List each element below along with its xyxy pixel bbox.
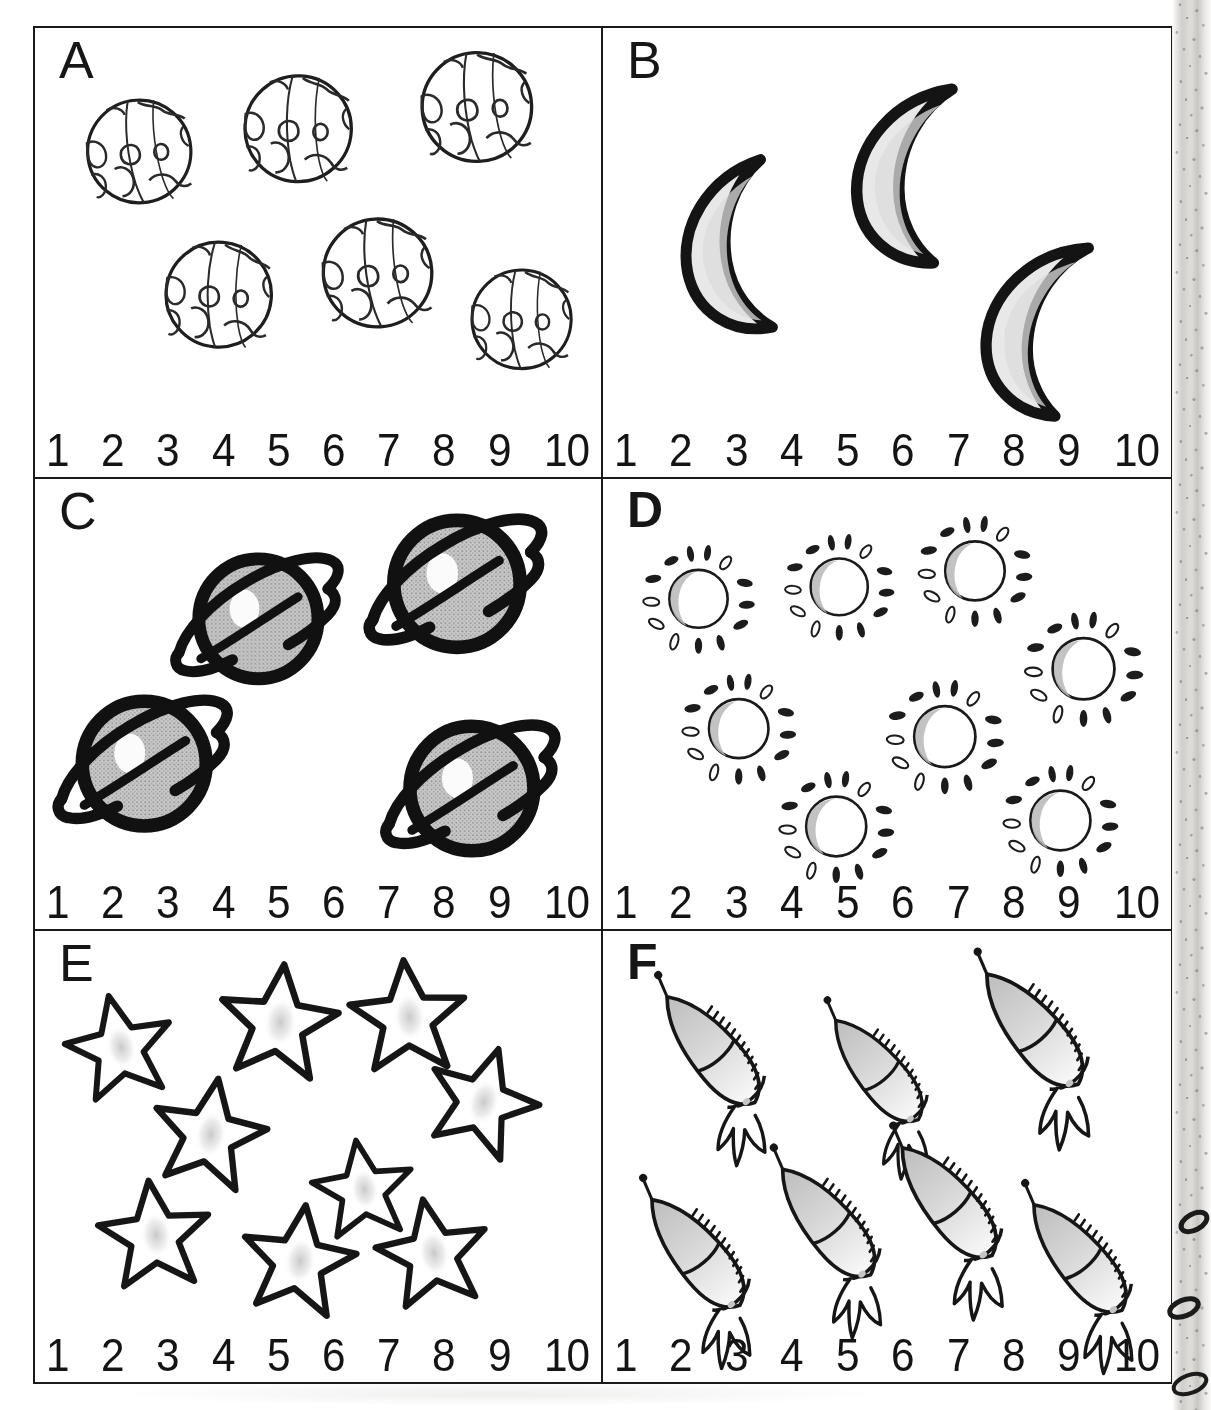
- panel-letter-e: E: [59, 937, 94, 989]
- number-3[interactable]: 3: [156, 879, 179, 925]
- number-2[interactable]: 2: [669, 879, 692, 925]
- panel-c[interactable]: C: [35, 479, 603, 930]
- number-4[interactable]: 4: [212, 427, 235, 473]
- number-10[interactable]: 10: [544, 879, 589, 925]
- panel-d[interactable]: D: [603, 479, 1171, 930]
- number-10[interactable]: 10: [544, 427, 589, 473]
- number-9[interactable]: 9: [488, 1332, 511, 1378]
- number-6[interactable]: 6: [891, 1332, 914, 1378]
- number-line-a[interactable]: 1 2 3 4 5 6 7 8 9 10: [35, 427, 601, 475]
- scan-bleed-smudge: [120, 1382, 880, 1406]
- number-7[interactable]: 7: [377, 1332, 400, 1378]
- number-9[interactable]: 9: [1057, 879, 1080, 925]
- number-1[interactable]: 1: [614, 427, 637, 473]
- number-3[interactable]: 3: [156, 427, 179, 473]
- panel-f[interactable]: F: [603, 931, 1171, 1382]
- number-3[interactable]: 3: [725, 1332, 748, 1378]
- panel-letter-c: C: [59, 485, 97, 537]
- number-5[interactable]: 5: [267, 427, 290, 473]
- number-1[interactable]: 1: [614, 879, 637, 925]
- panel-d-artwork: [603, 479, 1171, 928]
- panel-letter-d: D: [627, 485, 663, 535]
- earth-icon-group: [84, 51, 573, 371]
- rocket-icon-group: [603, 932, 1171, 1382]
- number-4[interactable]: 4: [212, 879, 235, 925]
- number-9[interactable]: 9: [1057, 1332, 1080, 1378]
- number-6[interactable]: 6: [891, 879, 914, 925]
- number-3[interactable]: 3: [725, 879, 748, 925]
- panel-b-artwork: [603, 28, 1171, 477]
- number-2[interactable]: 2: [669, 1332, 692, 1378]
- number-9[interactable]: 9: [488, 427, 511, 473]
- number-6[interactable]: 6: [322, 1332, 345, 1378]
- star-icon-group: [57, 956, 551, 1318]
- number-5[interactable]: 5: [267, 879, 290, 925]
- number-8[interactable]: 8: [1002, 427, 1025, 473]
- number-7[interactable]: 7: [377, 879, 400, 925]
- panel-b[interactable]: B 1 2 3 4 5 6: [603, 28, 1171, 479]
- number-4[interactable]: 4: [780, 427, 803, 473]
- number-line-b[interactable]: 1 2 3 4 5 6 7 8 9 10: [603, 427, 1171, 475]
- panel-a-artwork: [35, 28, 601, 477]
- number-7[interactable]: 7: [947, 1332, 970, 1378]
- number-8[interactable]: 8: [1002, 879, 1025, 925]
- panel-letter-f: F: [627, 937, 658, 987]
- panel-e-artwork: [35, 931, 601, 1382]
- number-1[interactable]: 1: [46, 1332, 69, 1378]
- number-3[interactable]: 3: [725, 427, 748, 473]
- number-5[interactable]: 5: [267, 1332, 290, 1378]
- number-7[interactable]: 7: [947, 879, 970, 925]
- sun-icon-group: [643, 516, 1144, 884]
- number-2[interactable]: 2: [669, 427, 692, 473]
- number-5[interactable]: 5: [836, 1332, 859, 1378]
- number-8[interactable]: 8: [432, 879, 455, 925]
- number-6[interactable]: 6: [322, 879, 345, 925]
- moon-icon-group: [676, 83, 1088, 417]
- number-7[interactable]: 7: [947, 427, 970, 473]
- number-5[interactable]: 5: [836, 427, 859, 473]
- facing-page-bleed-marks: [1160, 1140, 1211, 1410]
- number-8[interactable]: 8: [1002, 1332, 1025, 1378]
- number-9[interactable]: 9: [488, 879, 511, 925]
- panel-e[interactable]: E: [35, 931, 603, 1382]
- number-line-c[interactable]: 1 2 3 4 5 6 7 8 9 10: [35, 879, 601, 927]
- number-10[interactable]: 10: [1114, 427, 1159, 473]
- panel-f-artwork: [603, 931, 1171, 1382]
- number-8[interactable]: 8: [432, 427, 455, 473]
- panel-letter-b: B: [627, 34, 662, 86]
- number-9[interactable]: 9: [1057, 427, 1080, 473]
- saturn-icon-group: [58, 520, 555, 852]
- panel-a[interactable]: A: [35, 28, 603, 479]
- number-6[interactable]: 6: [891, 427, 914, 473]
- number-8[interactable]: 8: [432, 1332, 455, 1378]
- number-1[interactable]: 1: [46, 427, 69, 473]
- panel-c-artwork: [35, 479, 601, 928]
- number-3[interactable]: 3: [156, 1332, 179, 1378]
- number-10[interactable]: 10: [1114, 879, 1159, 925]
- number-2[interactable]: 2: [101, 427, 124, 473]
- number-5[interactable]: 5: [836, 879, 859, 925]
- number-7[interactable]: 7: [377, 427, 400, 473]
- worksheet-page: A: [0, 0, 1211, 1410]
- number-line-d[interactable]: 1 2 3 4 5 6 7 8 9 10: [603, 879, 1171, 927]
- number-1[interactable]: 1: [46, 879, 69, 925]
- number-line-e[interactable]: 1 2 3 4 5 6 7 8 9 10: [35, 1332, 601, 1380]
- number-2[interactable]: 2: [101, 879, 124, 925]
- number-2[interactable]: 2: [101, 1332, 124, 1378]
- number-6[interactable]: 6: [322, 427, 345, 473]
- worksheet-grid: A: [33, 26, 1173, 1384]
- panel-letter-a: A: [59, 34, 94, 86]
- number-10[interactable]: 10: [1114, 1332, 1159, 1378]
- number-1[interactable]: 1: [614, 1332, 637, 1378]
- number-4[interactable]: 4: [780, 1332, 803, 1378]
- number-10[interactable]: 10: [544, 1332, 589, 1378]
- number-4[interactable]: 4: [212, 1332, 235, 1378]
- number-4[interactable]: 4: [780, 879, 803, 925]
- number-line-f[interactable]: 1 2 3 4 5 6 7 8 9 10: [603, 1332, 1171, 1380]
